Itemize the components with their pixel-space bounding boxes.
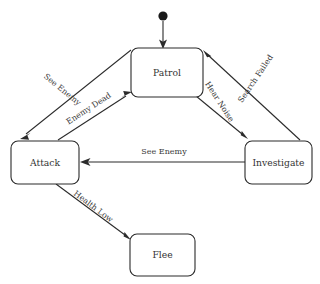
state-label-patrol: Patrol	[153, 67, 181, 78]
arrow-head-icon	[20, 133, 31, 140]
state-node-attack[interactable]: Attack	[11, 141, 79, 184]
diagram-canvas: See Enemy Enemy Dead Hear Noise Search F…	[0, 0, 320, 284]
edge-label-see-enemy-patrol-attack: See Enemy	[42, 72, 83, 108]
edge-start-to-patrol	[159, 21, 167, 49]
arrow-head-icon	[203, 50, 211, 61]
edge-label-health-low: Health Low	[72, 189, 115, 225]
edge-label-hear-noise: Hear Noise	[203, 80, 236, 124]
edge-investigate-to-attack	[80, 158, 245, 166]
edge-label-see-enemy-investigate-attack: See Enemy	[141, 147, 187, 156]
state-node-patrol[interactable]: Patrol	[131, 48, 203, 97]
state-label-attack: Attack	[29, 157, 60, 168]
state-node-flee[interactable]: Flee	[130, 234, 195, 276]
state-label-investigate: Investigate	[252, 157, 304, 168]
arrow-head-icon	[120, 232, 131, 240]
start-node-icon	[158, 11, 167, 20]
state-machine-diagram: See Enemy Enemy Dead Hear Noise Search F…	[0, 0, 320, 284]
edge-label-search-failed: Search Failed	[236, 53, 275, 104]
arrow-head-icon	[121, 91, 132, 98]
arrow-head-icon	[237, 131, 248, 139]
state-label-flee: Flee	[152, 249, 172, 260]
state-node-investigate[interactable]: Investigate	[245, 141, 312, 184]
